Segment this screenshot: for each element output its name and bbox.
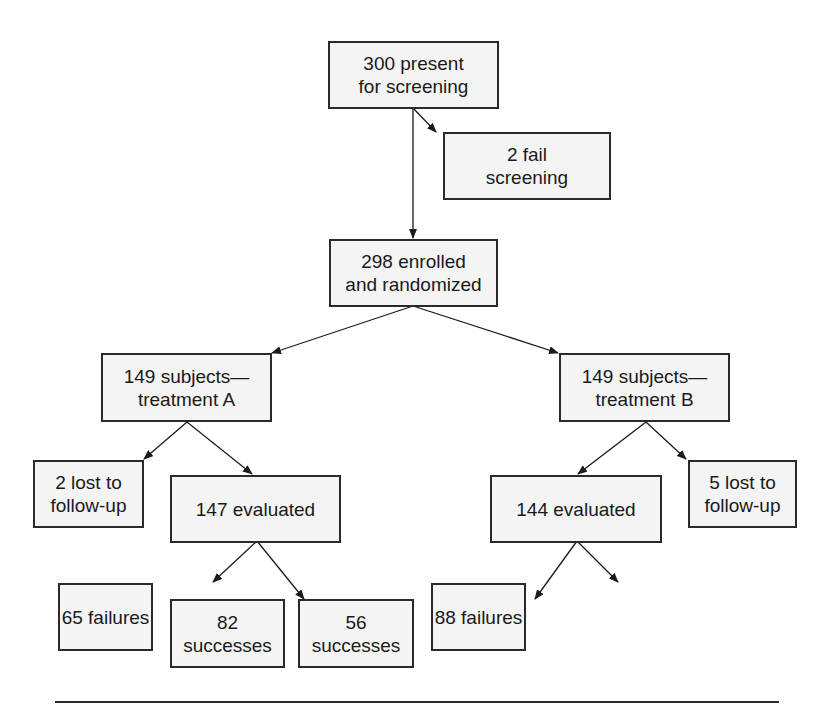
arrow-a-to-evaluated (187, 422, 252, 474)
node-successes-b: 56 successes (298, 599, 414, 668)
node-present-for-screening: 300 present for screening (328, 41, 499, 109)
arrow-enrolled-to-a (272, 306, 413, 353)
node-lost-b: 5 lost to follow-up (688, 460, 797, 528)
node-evaluated-b: 144 evaluated (490, 475, 662, 543)
node-treatment-a: 149 subjects— treatment A (101, 353, 272, 422)
node-enrolled-randomized: 298 enrolled and randomized (329, 239, 498, 307)
arrow-enrolled-to-b (413, 306, 558, 353)
arrow-b-to-evaluated (578, 422, 646, 474)
arrow-eval-b-to-successes (535, 541, 577, 599)
arrow-eval-b-to-failures (577, 541, 618, 582)
arrow-b-to-lost (646, 422, 686, 459)
node-successes-a: 82 successes (170, 599, 285, 668)
node-fail-screening: 2 fail screening (443, 132, 611, 200)
arrow-eval-a-to-failures (213, 541, 257, 582)
node-failures-b: 88 failures (431, 583, 526, 651)
node-lost-a: 2 lost to follow-up (33, 460, 144, 528)
bottom-rule (55, 701, 779, 703)
arrow-a-to-lost (144, 422, 187, 459)
arrow-screening-to-fail (413, 108, 436, 132)
node-failures-a: 65 failures (58, 583, 153, 651)
node-evaluated-a: 147 evaluated (170, 475, 341, 543)
arrow-eval-a-to-successes (257, 541, 304, 599)
node-treatment-b: 149 subjects— treatment B (559, 353, 730, 422)
